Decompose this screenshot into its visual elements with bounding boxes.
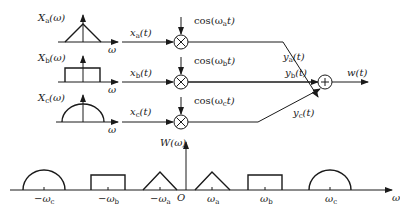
tick-label-neg-omega-b: −ωb xyxy=(98,193,120,206)
carrier-label-b: cos(ωbt) xyxy=(194,55,235,68)
yb-signal-label: yb(t) xyxy=(284,67,307,80)
xa-spectrum-label: Xa(ω) xyxy=(37,12,65,25)
omega-label: ω xyxy=(108,84,116,95)
adder: w(t) xyxy=(188,67,368,89)
xa-signal-label: xa(t) xyxy=(130,27,152,40)
origin-label: O xyxy=(177,192,185,203)
tick-label-omega-c: ωc xyxy=(325,193,337,206)
omega-axis-label: ω xyxy=(392,192,400,203)
multiply-icon xyxy=(177,78,186,87)
w-output-label: w(t) xyxy=(347,67,367,78)
multiply-icon xyxy=(177,118,186,127)
spectrum-xa: Xa(ω) ω xyxy=(37,12,118,55)
ya-signal-label: ya(t) xyxy=(282,51,305,64)
tick-label-omega-b: ωb xyxy=(260,193,273,206)
spectrum-xc: Xc(ω) ω xyxy=(37,92,118,135)
carrier-label-c: cos(ωct) xyxy=(194,95,235,108)
tick-label-neg-omega-c: −ωc xyxy=(34,193,55,206)
carrier-label-a: cos(ωat) xyxy=(194,15,235,28)
branch-c: xc(t) cos(ωct) yc(t) xyxy=(122,89,320,129)
tick-label-omega-a: ωa xyxy=(207,193,219,206)
omega-label: ω xyxy=(108,44,116,55)
tick-label-neg-omega-a: −ωa xyxy=(150,193,171,206)
output-spectrum: W(ω) O ω −ωc −ωb −ωa ωa ωb ωc xyxy=(10,137,400,206)
xc-signal-label: xc(t) xyxy=(130,106,151,119)
xc-spectrum-label: Xc(ω) xyxy=(37,92,65,105)
omega-label: ω xyxy=(108,124,116,135)
spectrum-xb: Xb(ω) ω xyxy=(37,52,118,95)
xb-signal-label: xb(t) xyxy=(130,67,152,80)
fdm-block-diagram: Xa(ω) ω Xb(ω) ω Xc(ω) ω xa(t) cos(ωat) y… xyxy=(0,0,400,214)
W-spectrum-label: W(ω) xyxy=(160,137,186,148)
multiply-icon xyxy=(177,38,186,47)
yc-signal-label: yc(t) xyxy=(292,107,314,120)
xb-spectrum-label: Xb(ω) xyxy=(37,52,66,65)
